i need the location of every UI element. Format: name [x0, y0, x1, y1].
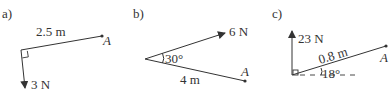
panel-a-distance-label: 2.5 m — [36, 24, 66, 39]
panel-b-distance-label: 4 m — [180, 72, 200, 87]
panel-c: c) 23 N A 0.8 m 18° — [272, 6, 388, 81]
panel-b-force-arrow — [145, 33, 225, 59]
panel-a-right-angle-icon — [22, 51, 28, 58]
panel-a-force-arrow — [21, 50, 25, 88]
panel-a-label: a) — [2, 6, 12, 21]
panel-b: b) 6 N A 30° 4 m — [133, 6, 249, 87]
moments-diagram: a) 2.5 m A 3 N b) 6 N A 30° 4 m c) 23 N … — [0, 0, 392, 93]
panel-c-point-label: A — [379, 50, 388, 65]
panel-c-label: c) — [272, 6, 282, 21]
panel-b-point — [243, 79, 246, 82]
panel-c-distance-label: 0.8 m — [316, 44, 349, 67]
panel-a-point-label: A — [102, 33, 111, 48]
panel-b-label: b) — [133, 6, 144, 21]
panel-b-force-label: 6 N — [229, 24, 249, 39]
panel-c-angle-label: 18° — [322, 66, 340, 81]
panel-b-angle-arc — [163, 53, 164, 63]
panel-b-point-label: A — [240, 64, 249, 79]
panel-c-point — [384, 44, 387, 47]
panel-a-force-label: 3 N — [31, 77, 51, 92]
panel-b-angle-label: 30° — [165, 51, 183, 66]
panel-a: a) 2.5 m A 3 N — [2, 6, 111, 92]
panel-c-force-label: 23 N — [298, 31, 324, 46]
